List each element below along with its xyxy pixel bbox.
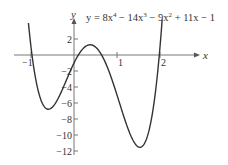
y-tick-label: −6 (61, 98, 72, 109)
x-tick-label: 2 (161, 57, 166, 68)
equation-label: y = 8x4 − 14x3 − 9x2 + 11x − 1 (86, 11, 215, 23)
y-tick-label: −8 (61, 114, 72, 125)
function-plot: x y −1122−2−4−6−8−10−12 y = 8x4 − 14x3 −… (0, 0, 228, 165)
x-tick-label: 1 (118, 57, 123, 68)
y-tick-label: −12 (56, 146, 72, 157)
y-axis-label: y (70, 8, 76, 20)
axis-ticks: −1122−2−4−6−8−10−12 (22, 34, 166, 157)
x-axis: x (14, 49, 208, 61)
x-axis-arrow-icon (194, 53, 200, 58)
x-axis-label: x (202, 49, 208, 61)
y-tick-label: −10 (56, 130, 72, 141)
function-curve (28, 20, 162, 148)
y-tick-label: 2 (67, 34, 72, 45)
x-tick-label: −1 (22, 57, 33, 68)
